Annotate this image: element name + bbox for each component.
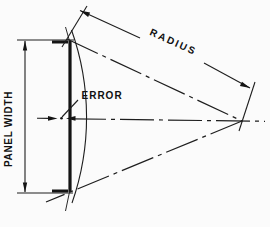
panel-width-label: PANEL WIDTH [3,91,14,167]
error-label: ERROR [82,90,123,101]
radius-label: RADIUS [148,26,198,57]
center-line-lower [46,121,242,202]
arrowhead-right-icon [48,116,58,121]
panel-width-dimension: PANEL WIDTH [3,40,75,193]
arrowhead-down-icon [23,183,27,193]
diagram-canvas: PANEL WIDTH ERROR RADIUS [0,0,270,227]
arc-line [72,30,87,203]
center-line-upper [67,39,242,121]
arrowhead-up-icon [23,41,27,51]
radius-extension-line-right [239,82,255,131]
radius-dimension: RADIUS [62,6,255,131]
chord-extension-bottom [66,192,70,211]
center-line-horizontal [72,119,265,122]
panel-radius-error-diagram: PANEL WIDTH ERROR RADIUS [0,0,270,227]
error-callout: ERROR [48,90,123,121]
